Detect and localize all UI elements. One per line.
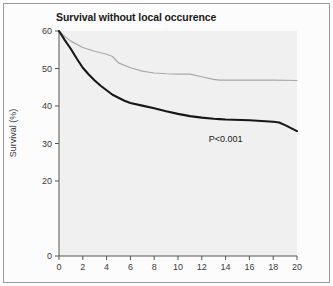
x-tick-label: 12 (197, 262, 207, 272)
y-tick-label: 40 (42, 101, 52, 111)
y-tick-label: 20 (42, 176, 52, 186)
x-tick-label: 10 (173, 262, 183, 272)
y-tick-label: 0 (47, 251, 52, 261)
y-tick-label: 50 (42, 64, 52, 74)
x-tick-label: 4 (104, 262, 109, 272)
x-tick-label: 0 (56, 262, 61, 272)
survival-chart: 0246810121416182002030405060P<0.001 (0, 0, 333, 286)
x-tick-label: 14 (221, 262, 231, 272)
x-tick-label: 2 (80, 262, 85, 272)
figure-container: Survival without local occurence Surviva… (0, 0, 333, 286)
x-tick-label: 8 (152, 262, 157, 272)
y-tick-label: 30 (42, 139, 52, 149)
plot-background (59, 31, 297, 256)
x-tick-label: 18 (268, 262, 278, 272)
p-value-annotation: P<0.001 (209, 134, 243, 144)
x-tick-label: 20 (292, 262, 302, 272)
x-tick-label: 6 (128, 262, 133, 272)
y-tick-label: 60 (42, 26, 52, 36)
x-tick-label: 16 (244, 262, 254, 272)
